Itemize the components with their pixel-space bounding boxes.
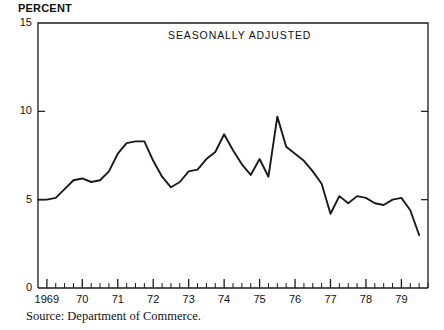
x-axis-ticks [47, 279, 428, 288]
x-axis-tick-label: 77 [324, 293, 336, 305]
x-axis-tick-label: 72 [147, 293, 159, 305]
x-axis-tick-label: 73 [183, 293, 195, 305]
plot-area [0, 0, 444, 330]
y-axis-tick-label: 10 [4, 104, 32, 116]
y-axis-tick-label: 0 [4, 281, 32, 293]
x-axis-tick-label: 71 [112, 293, 124, 305]
x-axis-tick-label: 1969 [35, 293, 59, 305]
data-series-line [38, 117, 419, 235]
y-axis-tick-label: 15 [4, 16, 32, 28]
x-axis-tick-label: 76 [289, 293, 301, 305]
x-axis-tick-label: 78 [360, 293, 372, 305]
x-axis-tick-label: 70 [76, 293, 88, 305]
chart-figure: PERCENT SEASONALLY ADJUSTED 051015 19697… [0, 0, 444, 330]
source-note: Source: Department of Commerce. [26, 309, 201, 324]
y-axis-ticks [38, 111, 428, 199]
x-axis-tick-label: 74 [218, 293, 230, 305]
x-axis-tick-label: 75 [253, 293, 265, 305]
plot-frame [38, 23, 428, 288]
y-axis-tick-label: 5 [4, 193, 32, 205]
x-axis-tick-label: 79 [395, 293, 407, 305]
